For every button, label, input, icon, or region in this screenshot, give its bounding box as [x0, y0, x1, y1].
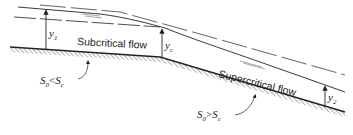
slope-condition-upstream: S0<Sc: [40, 74, 65, 89]
slope-leader-upstream: [78, 62, 88, 79]
slope-condition-downstream: S0>Sc: [197, 108, 222, 123]
y1-label: y1: [48, 27, 57, 42]
y2-label: y2: [327, 91, 337, 106]
supercritical-flow-label: Supercritical flow: [218, 67, 298, 98]
flow-profile-diagram: y1 yc y2 Subcritical flow Supercritical …: [0, 0, 353, 135]
water-surface: [18, 7, 345, 92]
subcritical-flow-label: Subcritical flow: [77, 35, 148, 51]
yc-label: yc: [164, 39, 174, 54]
slope-leader-downstream: [235, 96, 255, 115]
normal-depth-line-upstream: [14, 17, 160, 27]
